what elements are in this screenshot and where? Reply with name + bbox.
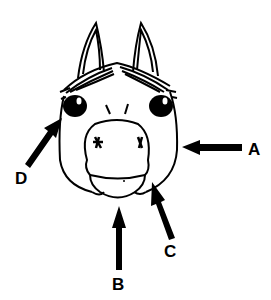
mouth-line (90, 175, 145, 179)
label-b: B (112, 275, 124, 294)
chin-dot (123, 180, 125, 182)
forelock (60, 63, 176, 93)
left-eye-icon (61, 95, 87, 117)
brow-line-right (125, 104, 128, 114)
muzzle-outline (85, 120, 149, 198)
label-c: C (164, 242, 176, 261)
right-ear-icon (133, 23, 158, 76)
left-nostril-icon (93, 137, 103, 148)
arrow-a-icon (182, 140, 242, 155)
horse-head-diagram: A B C D (0, 0, 271, 300)
brow-line-left (106, 105, 110, 114)
diagram-svg: A B C D (0, 0, 271, 300)
arrow-c-icon (151, 182, 175, 240)
label-a: A (248, 140, 260, 159)
arrow-d-icon (25, 118, 62, 168)
arrow-b-icon (112, 206, 126, 270)
left-ear-icon (78, 23, 104, 78)
right-nostril-icon (138, 137, 142, 148)
label-d: D (15, 169, 27, 188)
